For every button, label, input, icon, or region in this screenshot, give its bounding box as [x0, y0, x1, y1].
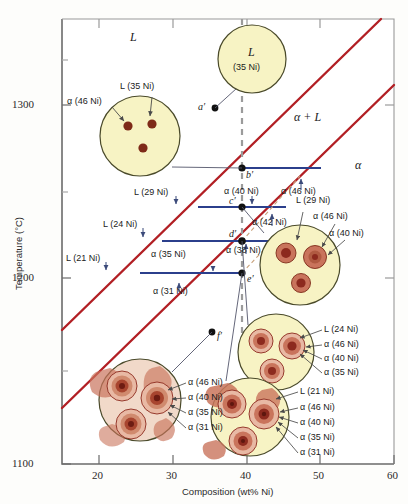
- annotation-liquid-29ni: L (29 Ni): [134, 188, 168, 197]
- callout-alpha-46ni-b: α (46 Ni): [67, 97, 102, 106]
- alpha-grain: [276, 243, 296, 263]
- y-tick-label-1300: 1300: [12, 99, 34, 110]
- x-tick-label-60: 60: [387, 470, 398, 481]
- alpha-grain-cored: [249, 329, 273, 353]
- x-tick-label-30: 30: [166, 470, 177, 481]
- alpha-grain-cored: [116, 409, 146, 439]
- callout-alpha-40ni-c: α (40 Ni): [329, 229, 364, 238]
- point-label-b-prime: b′: [246, 170, 253, 180]
- point-label-a-prime: a′: [198, 102, 205, 112]
- annotation-alpha-31ni: α (31 Ni): [153, 287, 188, 296]
- inset-liquid-top-label-comp: (35 Ni): [233, 63, 260, 72]
- region-label-alpha-plus-liquid: α + L: [294, 111, 321, 123]
- x-tick-label-40: 40: [240, 470, 251, 481]
- callout-alpha-31ni-e: α (31 Ni): [300, 448, 335, 457]
- annotation-alpha-35ni: α (35 Ni): [151, 250, 186, 259]
- alpha-grain-cored: [229, 427, 257, 455]
- inset-liquid-top-label-L: L: [248, 46, 255, 58]
- callout-alpha-46ni-c: α (46 Ni): [313, 212, 348, 221]
- annotation-alpha-42ni: α (42 Ni): [252, 218, 287, 227]
- point-label-f-prime: f′: [217, 331, 222, 341]
- y-tick-label-1100: 1100: [12, 458, 34, 469]
- annotation-alpha-40ni-c: α (40 Ni): [224, 187, 259, 196]
- alpha-grain: [292, 274, 311, 293]
- x-tick-label-20: 20: [92, 470, 103, 481]
- annotation-liquid-21ni: L (21 Ni): [66, 254, 100, 263]
- alpha-grain-cored: [141, 382, 173, 414]
- callout-alpha-35ni-f: α (35 Ni): [188, 408, 223, 417]
- callout-L-24ni: L (24 Ni): [324, 325, 358, 334]
- callout-alpha-46ni-e: α (46 Ni): [300, 403, 335, 412]
- alpha-grain: [304, 246, 327, 269]
- x-tick-label-50: 50: [313, 470, 324, 481]
- x-axis-title: Composition (wt% Ni): [182, 487, 273, 497]
- callout-L-21ni: L (21 Ni): [300, 387, 334, 396]
- callout-alpha-35ni-d: α (35 Ni): [324, 368, 359, 377]
- callout-alpha-46ni-d: α (46 Ni): [324, 340, 359, 349]
- callout-alpha-40ni-d: α (40 Ni): [324, 354, 359, 363]
- annotation-liquid-24ni: L (24 Ni): [103, 220, 137, 229]
- region-label-alpha: α: [355, 159, 361, 171]
- region-label-liquid: L: [130, 31, 137, 43]
- callout-L-35ni: L (35 Ni): [120, 82, 154, 91]
- point-label-e-prime: e′: [247, 274, 254, 284]
- alpha-grain-cored: [249, 399, 279, 429]
- callout-alpha-31ni-f: α (31 Ni): [188, 423, 223, 432]
- alpha-grain-cored: [107, 371, 137, 401]
- annotation-alpha-38ni: α (38 Ni): [226, 246, 261, 255]
- callout-alpha-40ni-f: α (40 Ni): [188, 393, 223, 402]
- callout-alpha-46ni-f: α (46 Ni): [188, 378, 223, 387]
- y-axis-title: Temperature (°C): [14, 217, 24, 290]
- phase-diagram-figure: 1300 1200 1100 Temperature (°C) 20 30 40…: [0, 0, 408, 504]
- callout-alpha-35ni-e: α (35 Ni): [300, 433, 335, 442]
- callout-alpha-40ni-e: α (40 Ni): [300, 418, 335, 427]
- inset-b-nucleation: [100, 96, 180, 176]
- inset-liquid-top: [218, 25, 286, 93]
- alpha-grain-cored: [260, 359, 284, 383]
- callout-L-29ni: L (29 Ni): [296, 196, 330, 205]
- point-label-d-prime: d′: [229, 229, 236, 239]
- point-label-c-prime: c′: [229, 196, 236, 206]
